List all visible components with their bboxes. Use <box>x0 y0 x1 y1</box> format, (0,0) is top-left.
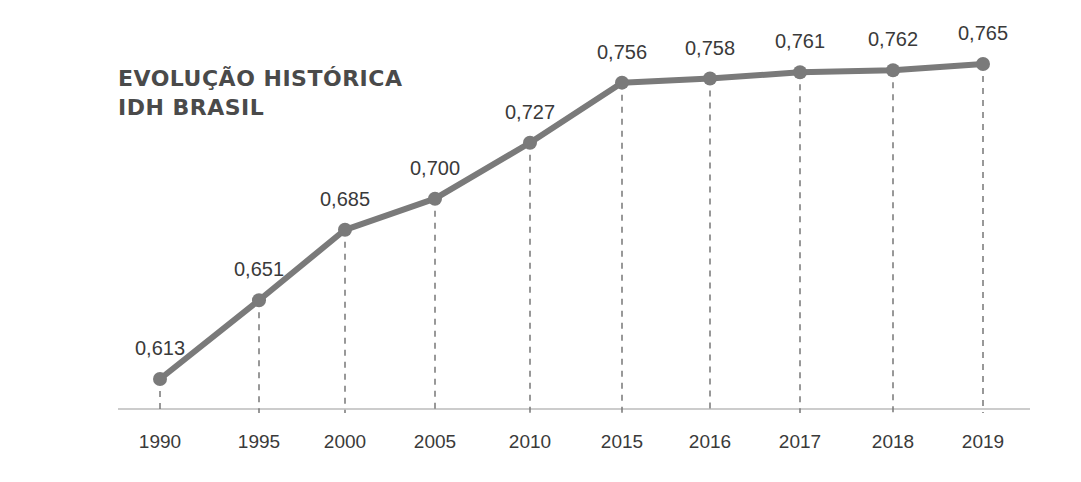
value-label: 0,685 <box>320 188 370 210</box>
value-label: 0,651 <box>234 258 284 280</box>
data-point <box>886 63 900 77</box>
x-tick-label: 2018 <box>872 431 914 452</box>
x-tick-label: 2005 <box>414 431 456 452</box>
data-point <box>976 57 990 71</box>
data-point <box>153 372 167 386</box>
x-tick-label: 2019 <box>962 431 1004 452</box>
value-label: 0,765 <box>958 22 1008 44</box>
value-label: 0,762 <box>868 28 918 50</box>
x-tick-label: 2017 <box>779 431 821 452</box>
data-points <box>153 57 990 386</box>
x-tick-label: 2016 <box>689 431 731 452</box>
x-tick-label: 2000 <box>324 431 366 452</box>
data-point <box>703 72 717 86</box>
x-tick-label: 2010 <box>509 431 551 452</box>
data-point <box>615 76 629 90</box>
x-tick-label: 1995 <box>238 431 280 452</box>
data-point <box>793 65 807 79</box>
value-label: 0,761 <box>775 30 825 52</box>
value-label: 0,727 <box>505 101 555 123</box>
x-tick-label: 1990 <box>139 431 181 452</box>
data-point <box>428 192 442 206</box>
value-label: 0,756 <box>597 41 647 63</box>
data-point <box>252 293 266 307</box>
series-line <box>160 64 983 379</box>
x-tick-label: 2015 <box>601 431 643 452</box>
data-point <box>523 136 537 150</box>
value-label: 0,700 <box>410 157 460 179</box>
line-chart: 0,6130,6510,6850,7000,7270,7560,7580,761… <box>0 0 1081 482</box>
value-label: 0,758 <box>685 37 735 59</box>
data-point <box>338 223 352 237</box>
x-tick-labels: 1990199520002005201020152016201720182019 <box>139 431 1004 452</box>
value-label: 0,613 <box>135 337 185 359</box>
